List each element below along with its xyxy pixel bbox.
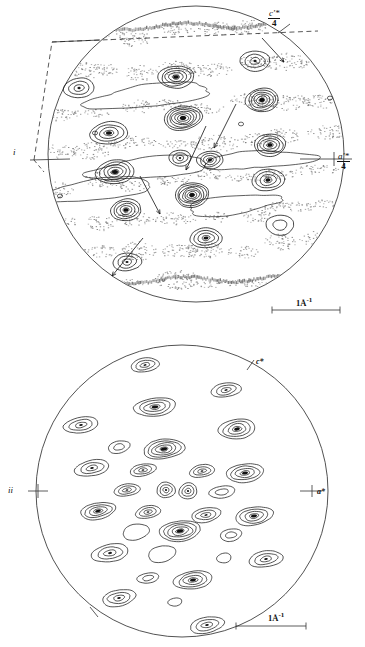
panel-i: i c'* 4 a'* 4 1Å-1	[0, 0, 365, 330]
figure-root: i c'* 4 a'* 4 1Å-1 ii c* a*	[0, 0, 365, 647]
axis-label-c-star: c*	[256, 358, 264, 366]
panel-i-label: i	[13, 148, 16, 157]
axis-label-c-star-over-4: c'* 4	[268, 9, 280, 28]
scale-exponent-ii: -1	[278, 611, 284, 619]
axis-label-a-star-over-4: a'* 4	[337, 152, 350, 171]
a-star-denominator: 4	[337, 162, 350, 171]
scale-exponent-i: -1	[306, 296, 312, 304]
c-star-denominator: 4	[268, 19, 280, 28]
scale-bar-label-i: 1Å-1	[296, 296, 312, 308]
panel-ii-label: ii	[8, 486, 13, 495]
axis-label-a-star: a*	[317, 488, 325, 496]
panel-i-plot	[0, 0, 365, 330]
panel-ii-plot	[0, 330, 365, 647]
scale-bar-label-ii: 1Å-1	[268, 611, 284, 623]
panel-ii: ii c* a* 1Å-1	[0, 330, 365, 647]
